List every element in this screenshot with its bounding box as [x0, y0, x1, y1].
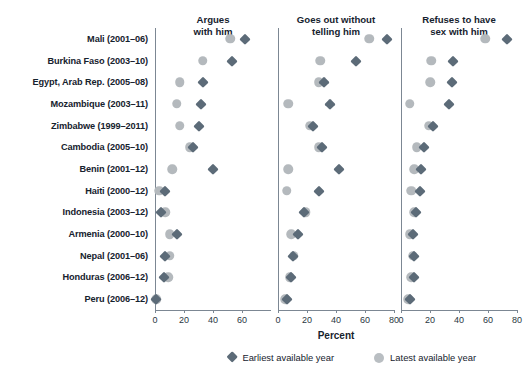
country-label: Zimbabwe (1999–2011) [51, 121, 148, 131]
y-axis-line [155, 28, 156, 310]
data-point-latest [175, 77, 185, 87]
data-point-earliest [240, 33, 251, 44]
x-axis-tick [242, 310, 243, 313]
x-axis-tick [459, 310, 460, 313]
panel-title-line: Argues [194, 14, 233, 26]
x-axis-tick [278, 310, 279, 313]
legend-label-latest: Latest available year [390, 352, 476, 363]
panel-1: Argueswith him0204060 [155, 14, 271, 336]
country-label: Cambodia (2005–10) [61, 142, 148, 152]
data-point-latest [425, 77, 435, 87]
x-axis-tick [430, 310, 431, 313]
data-point-latest [198, 56, 208, 66]
data-point-latest [427, 56, 437, 66]
data-point-latest [365, 34, 375, 44]
plot-area: 020406080 [278, 28, 394, 310]
data-point-latest [226, 34, 236, 44]
panel-title-line: Goes out without [297, 14, 375, 26]
data-point-latest [282, 186, 292, 196]
panel-title-line: Refuses to have [422, 14, 496, 26]
data-point-earliest [208, 164, 219, 175]
data-point-latest [172, 99, 182, 109]
country-label: Honduras (2006–12) [62, 272, 148, 282]
x-axis-tick [184, 310, 185, 313]
panel-2: Goes out withouttelling him020406080 [278, 14, 394, 336]
data-point-latest [283, 99, 293, 109]
data-point-latest [175, 121, 185, 131]
x-axis-tick-label: 0 [398, 315, 403, 325]
x-axis-tick [517, 310, 518, 313]
data-point-earliest [226, 55, 237, 66]
x-axis-tick [394, 310, 395, 313]
data-point-latest [283, 164, 293, 174]
x-axis-tick-label: 60 [360, 315, 370, 325]
data-point-earliest [351, 55, 362, 66]
legend-label-earliest: Earliest available year [242, 352, 334, 363]
data-point-earliest [381, 33, 392, 44]
data-point-latest [315, 56, 325, 66]
plot-area: 0204060 [155, 28, 271, 310]
country-label: Nepal (2001–06) [80, 251, 148, 261]
dot-plot-chart: Mali (2001–06)Burkina Faso (2003–10)Egyp… [0, 0, 530, 376]
x-axis-tick-label: 40 [454, 315, 464, 325]
x-axis-tick-label: 40 [208, 315, 218, 325]
x-axis-tick-label: 40 [331, 315, 341, 325]
country-label: Egypt, Arab Rep. (2005–08) [32, 77, 148, 87]
data-point-earliest [446, 77, 457, 88]
x-axis-tick [307, 310, 308, 313]
country-label: Mozambique (2003–11) [50, 99, 148, 109]
country-label: Armenia (2000–10) [68, 229, 148, 239]
x-axis-tick-label: 20 [425, 315, 435, 325]
data-point-earliest [197, 77, 208, 88]
data-point-latest [168, 164, 178, 174]
data-point-earliest [196, 99, 207, 110]
data-point-earliest [334, 164, 345, 175]
x-axis-tick [336, 310, 337, 313]
country-label: Mali (2001–06) [87, 34, 148, 44]
chart-legend: Earliest available year Latest available… [228, 352, 476, 363]
data-point-earliest [414, 185, 425, 196]
legend-item-latest: Latest available year [374, 352, 476, 363]
country-label: Indonesia (2003–12) [63, 207, 148, 217]
data-point-earliest [313, 185, 324, 196]
country-label: Burkina Faso (2003–10) [48, 56, 148, 66]
x-axis-tick [213, 310, 214, 313]
x-axis-tick-label: 80 [512, 315, 522, 325]
country-label: Peru (2006–12) [85, 294, 148, 304]
country-label: Benin (2001–12) [80, 164, 148, 174]
data-point-latest [405, 99, 415, 109]
x-axis-tick [401, 310, 402, 313]
data-point-earliest [448, 55, 459, 66]
x-axis-tick-label: 20 [302, 315, 312, 325]
data-point-latest [480, 34, 490, 44]
panel-3: Refuses to havesex with him020406080 [401, 14, 517, 336]
x-axis-tick [488, 310, 489, 313]
legend-item-earliest: Earliest available year [228, 352, 334, 363]
x-axis-label: Percent [318, 330, 355, 341]
x-axis-tick-label: 20 [179, 315, 189, 325]
x-axis-tick-label: 0 [152, 315, 157, 325]
data-point-earliest [325, 99, 336, 110]
diamond-marker-icon [226, 352, 238, 364]
data-point-earliest [443, 99, 454, 110]
circle-marker-icon [374, 353, 384, 363]
x-axis-tick [365, 310, 366, 313]
y-axis-line [278, 28, 279, 310]
data-point-earliest [501, 33, 512, 44]
x-axis-tick-label: 60 [237, 315, 247, 325]
country-label: Haiti (2000–12) [85, 186, 148, 196]
x-axis-tick-label: 0 [275, 315, 280, 325]
x-axis-tick-label: 60 [483, 315, 493, 325]
data-point-earliest [193, 120, 204, 131]
x-axis-tick [155, 310, 156, 313]
plot-area: 020406080 [401, 28, 517, 310]
y-axis-line [401, 28, 402, 310]
